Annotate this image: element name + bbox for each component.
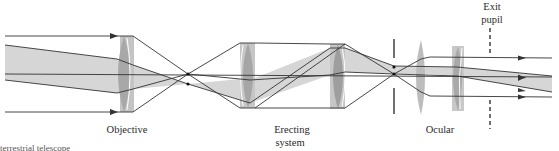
objective-lens (118, 36, 134, 112)
erecting-lens-2 (330, 44, 345, 109)
erecting-system-label-line2: system (270, 137, 310, 149)
exit-pupil-label-line2: pupil (477, 14, 507, 26)
objective-label: Objective (102, 124, 152, 136)
caption-fragment: terrestrial telescope (0, 144, 70, 151)
exit-pupil-label-line1: Exit (480, 1, 504, 13)
ocular-field-lens (416, 40, 425, 115)
exit-arrows (518, 56, 526, 100)
erecting-system-label-line1: Erecting (270, 124, 314, 136)
ocular-label: Ocular (420, 124, 460, 136)
ocular-eye-lens (452, 46, 464, 111)
